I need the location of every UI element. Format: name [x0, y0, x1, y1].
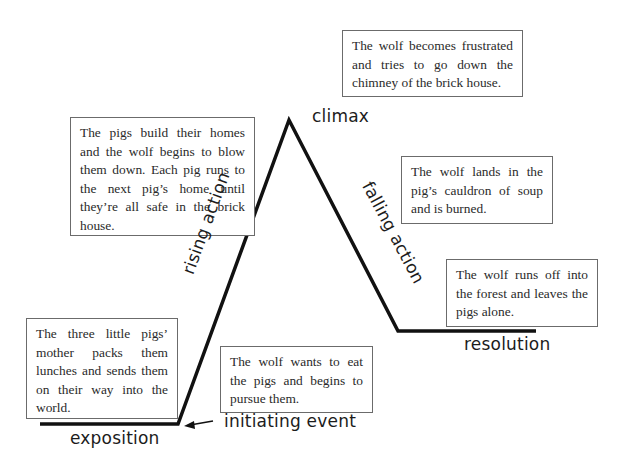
falling-action-description-box: The wolf lands in the pig’s cauldron of … — [401, 156, 553, 224]
resolution-description: The wolf runs off into the forest and le… — [456, 267, 588, 319]
initiating-event-description-box: The wolf wants to eat the pigs and begin… — [220, 346, 373, 413]
exposition-label: exposition — [70, 428, 160, 448]
arrow-icon — [184, 421, 213, 429]
climax-description: The wolf becomes frustrated and tries to… — [352, 38, 513, 90]
climax-description-box: The wolf becomes frustrated and tries to… — [342, 30, 523, 97]
exposition-description-box: The three little pigs’ mother packs them… — [26, 318, 178, 419]
initiating-event-description: The wolf wants to eat the pigs and begin… — [230, 354, 363, 406]
resolution-description-box: The wolf runs off into the forest and le… — [446, 259, 598, 327]
initiating-event-label: initiating event — [224, 411, 356, 431]
falling-action-description: The wolf lands in the pig’s cauldron of … — [411, 164, 543, 216]
exposition-description: The three little pigs’ mother packs them… — [36, 326, 168, 415]
resolution-label: resolution — [464, 334, 550, 354]
climax-label: climax — [312, 106, 369, 126]
